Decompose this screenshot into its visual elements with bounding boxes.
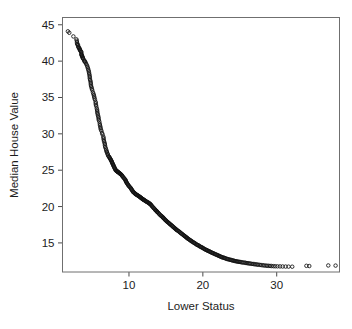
y-tick-label: 20 xyxy=(42,201,55,213)
y-axis-title: Median House Value xyxy=(8,92,20,198)
y-tick-label: 15 xyxy=(42,237,55,249)
chart-figure: 15202530354045 102030 Lower Status Media… xyxy=(0,0,352,329)
x-tick-label: 10 xyxy=(123,279,136,291)
y-tick-label: 40 xyxy=(42,55,55,67)
x-tick-label: 30 xyxy=(270,279,283,291)
y-tick-label: 30 xyxy=(42,128,55,140)
x-axis-title: Lower Status xyxy=(167,300,234,312)
y-tick-label: 45 xyxy=(42,19,55,31)
y-tick-label: 25 xyxy=(42,164,55,176)
x-tick-label: 20 xyxy=(196,279,209,291)
y-tick-label: 35 xyxy=(42,91,55,103)
scatter-plot: 15202530354045 102030 Lower Status Media… xyxy=(0,0,352,329)
